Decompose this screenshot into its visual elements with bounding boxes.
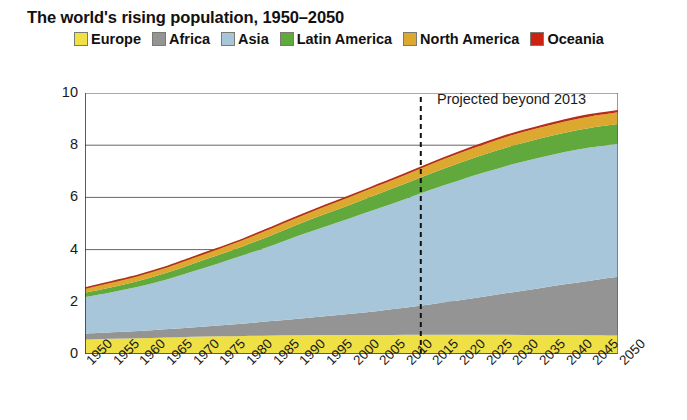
legend-item-africa[interactable]: Africa <box>152 32 210 47</box>
page-title: The world's rising population, 1950–2050 <box>27 8 344 27</box>
legend-item-north-america[interactable]: North America <box>403 32 519 47</box>
legend-item-label: Asia <box>238 32 269 47</box>
legend-item-label: Oceania <box>547 32 603 47</box>
legend-swatch-icon <box>221 32 235 46</box>
legend-item-label: North America <box>420 32 519 47</box>
legend-swatch-icon <box>530 32 544 46</box>
legend-item-label: Africa <box>169 32 210 47</box>
legend-item-asia[interactable]: Asia <box>221 32 269 47</box>
legend-swatch-icon <box>403 32 417 46</box>
y-tick-label: 2 <box>44 294 78 309</box>
projection-annotation-label: Projected beyond 2013 <box>437 90 586 108</box>
y-tick-label: 6 <box>44 189 78 204</box>
legend-item-oceania[interactable]: Oceania <box>530 32 603 47</box>
legend-item-label: Latin America <box>297 32 392 47</box>
x-axis-tick-labels: 1950195519601965197019751980198519901995… <box>85 358 618 418</box>
legend-item-europe[interactable]: Europe <box>74 32 141 47</box>
x-tick-label: 2050 <box>617 337 648 368</box>
plot-area <box>85 93 618 354</box>
y-tick-label: 4 <box>44 242 78 257</box>
y-tick-label: 0 <box>44 346 78 361</box>
y-axis-tick-labels: 0246810 <box>40 93 78 354</box>
y-tick-label: 10 <box>44 85 78 100</box>
population-area-chart: The world's rising population, 1950–2050… <box>0 0 687 420</box>
legend-swatch-icon <box>280 32 294 46</box>
legend-swatch-icon <box>74 32 88 46</box>
y-tick-label: 8 <box>44 137 78 152</box>
legend-swatch-icon <box>152 32 166 46</box>
chart-legend: EuropeAfricaAsiaLatin AmericaNorth Ameri… <box>74 32 615 47</box>
stacked-area-svg <box>85 93 618 354</box>
legend-item-label: Europe <box>91 32 141 47</box>
legend-item-latin-america[interactable]: Latin America <box>280 32 392 47</box>
